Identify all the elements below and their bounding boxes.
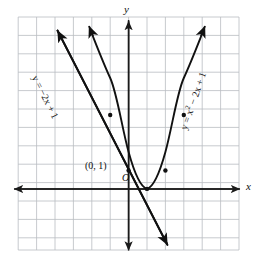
parabola-right-arrow — [201, 26, 205, 36]
curve-linear — [58, 31, 168, 246]
origin-label: O — [122, 173, 129, 183]
parabola-left-arrow — [89, 26, 93, 36]
line-segment-y-eq-neg2x-plus-1-reverse — [58, 31, 168, 246]
point-marker — [145, 187, 149, 191]
point-marker — [163, 168, 167, 172]
graph-figure: x y O (0, 1) y = −2x + 1 y = x2 − 2x + 1 — [0, 0, 262, 263]
axis-label-y: y — [124, 4, 129, 15]
coordinate-plane-svg — [0, 0, 262, 263]
point-annotation-0-1: (0, 1) — [85, 161, 107, 171]
axes — [14, 20, 240, 251]
axis-label-x: x — [246, 181, 251, 192]
point-marker — [108, 113, 112, 117]
